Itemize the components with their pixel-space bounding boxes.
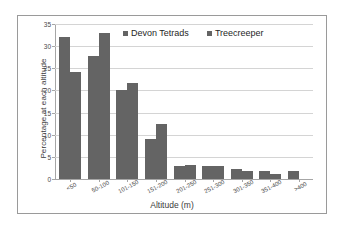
bar-devon-tetrads xyxy=(116,90,127,179)
y-tick-label: 35 xyxy=(44,21,51,28)
x-tick-mark xyxy=(213,179,214,182)
bar-devon-tetrads xyxy=(174,166,185,179)
x-tick-label: 151-200 xyxy=(146,179,168,195)
y-tick-label: 0 xyxy=(47,176,51,183)
chart-container: Percentage at each altitude Devon Tetrad… xyxy=(17,15,327,214)
bar-group: 301-350 xyxy=(227,24,256,179)
x-tick-mark xyxy=(299,179,300,182)
x-tick-label: 101-150 xyxy=(118,179,140,195)
bar-devon-tetrads xyxy=(88,56,99,179)
x-tick-mark xyxy=(156,179,157,182)
x-tick-label: 201-250 xyxy=(175,179,197,195)
bar-group: 101-150 xyxy=(113,24,142,179)
y-tick-label: 15 xyxy=(44,109,51,116)
x-tick-mark xyxy=(185,179,186,182)
x-tick-mark xyxy=(270,179,271,182)
bar-group: 351-400 xyxy=(256,24,285,179)
x-tick-mark xyxy=(99,179,100,182)
x-tick-label: >400 xyxy=(293,181,308,193)
x-tick-label: 251-300 xyxy=(203,179,225,195)
y-tick-mark xyxy=(52,24,55,25)
bar-devon-tetrads xyxy=(288,171,299,179)
bar-treecreeper xyxy=(127,83,138,179)
y-tick-mark xyxy=(52,157,55,158)
bar-devon-tetrads xyxy=(145,139,156,179)
bar-treecreeper xyxy=(185,165,196,179)
bar-devon-tetrads xyxy=(59,37,70,179)
bar-devon-tetrads xyxy=(231,169,242,179)
bar-group: 251-300 xyxy=(199,24,228,179)
y-tick-mark xyxy=(52,113,55,114)
y-tick-label: 30 xyxy=(44,43,51,50)
y-tick-label: 5 xyxy=(47,153,51,160)
bar-group: <50 xyxy=(56,24,85,179)
y-tick-mark xyxy=(52,179,55,180)
plot-area: 05101520253035 <5050-100101-150151-20020… xyxy=(55,24,313,180)
x-tick-mark xyxy=(242,179,243,182)
x-axis-title: Altitude (m) xyxy=(18,200,326,210)
y-tick-mark xyxy=(52,135,55,136)
y-tick-mark xyxy=(52,90,55,91)
y-tick-label: 25 xyxy=(44,65,51,72)
bar-group: 50-100 xyxy=(85,24,114,179)
bar-group: >400 xyxy=(285,24,314,179)
bar-groups: <5050-100101-150151-200201-250251-300301… xyxy=(56,24,313,179)
x-tick-label: <50 xyxy=(66,182,78,192)
x-tick-mark xyxy=(127,179,128,182)
y-tick-label: 10 xyxy=(44,131,51,138)
bar-treecreeper xyxy=(99,33,110,179)
bar-treecreeper xyxy=(156,124,167,179)
x-tick-mark xyxy=(70,179,71,182)
x-tick-label: 301-350 xyxy=(232,179,254,195)
bar-devon-tetrads xyxy=(259,171,270,179)
bar-treecreeper xyxy=(213,166,224,179)
y-tick-mark xyxy=(52,68,55,69)
bar-devon-tetrads xyxy=(202,166,213,179)
y-tick-label: 20 xyxy=(44,87,51,94)
bar-treecreeper xyxy=(70,72,81,179)
bar-group: 151-200 xyxy=(142,24,171,179)
y-tick-mark xyxy=(52,46,55,47)
x-tick-label: 351-400 xyxy=(260,179,282,195)
bar-group: 201-250 xyxy=(170,24,199,179)
x-tick-label: 50-100 xyxy=(91,180,110,194)
